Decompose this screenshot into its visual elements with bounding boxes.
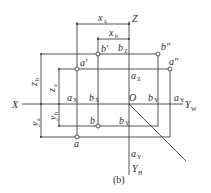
ayh-label: a [131,148,136,159]
ayw-sub: Y [180,97,185,103]
yw-axis-sub: W [191,106,197,112]
ayw-label: a [174,92,179,103]
figure-caption: (b) [113,174,125,186]
ax-label: a [67,92,72,103]
z-axis-label: Z [132,13,138,24]
xa-label: x [97,12,103,23]
byh-label: b [119,115,124,126]
point-b-side [156,52,160,56]
origin-label: O [129,92,136,103]
ya-sub: a [35,118,41,121]
ax-sub: X [73,97,78,103]
point-a-side [168,67,172,71]
bz-sub: Z [124,48,128,54]
b-top-label: b [90,115,95,126]
bx-sub: X [95,97,100,103]
za-sub: a [52,84,58,87]
a-top-label: a [74,138,79,149]
diagonal-45-line [129,104,186,161]
ayh-sub: Y [137,154,142,160]
xb-sub: b [115,33,118,39]
point-b-front [96,52,100,56]
byw-sub: Y [154,97,159,103]
xb-label: x [108,27,114,38]
bx-label: b [89,92,94,103]
byw-label: b [148,92,153,103]
b-front-label: b' [101,43,109,54]
a-front-label: a' [80,57,88,68]
point-a-front [75,67,79,71]
az-label: a [131,70,136,81]
yb-sub: b [53,112,59,115]
zb-sub: b [34,78,40,81]
za-label: z [46,88,57,93]
projection-diagram: X Z O Y W Y H x a x b z b z a y a y b a'… [0,0,211,193]
yh-axis-sub: H [138,170,143,176]
b-side-label: b" [161,41,171,52]
az-sub: Z [137,76,141,82]
a-side-label: a" [169,56,179,67]
point-b-top [96,124,100,128]
zb-label: z [28,82,39,87]
x-axis-label: X [11,99,19,110]
bz-label: b [118,42,123,53]
xa-sub: a [104,18,107,24]
byh-sub: Y [125,120,130,126]
